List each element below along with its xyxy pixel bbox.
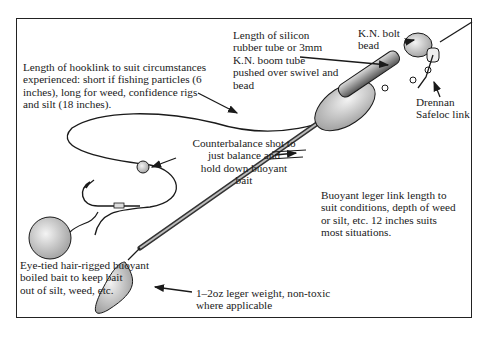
counterbalance-shot <box>137 161 149 173</box>
hook <box>82 182 140 206</box>
label-counterbalance-shot: Counterbalance shot to just balance and … <box>178 137 310 187</box>
label-bait: Eye-tied hair-rigged buoyant boiled bait… <box>20 259 149 296</box>
shot-arrow <box>152 158 176 167</box>
label-leger-link: Buoyant leger link length to suit condit… <box>321 189 456 239</box>
main-line <box>440 22 472 42</box>
label-silicon-tube: Length of silicon rubber tube or 3mm K.N… <box>233 29 338 91</box>
label-hooklink: Length of hooklink to suit circumstances… <box>23 61 206 111</box>
label-leger-weight: 1–2oz leger weight, non-toxic where appl… <box>196 287 330 312</box>
weight-arrow <box>155 287 192 292</box>
label-bolt-bead: K.N. bolt bead <box>358 27 400 52</box>
label-safeloc-link: Drennan Safeloc link <box>416 96 470 121</box>
boilie-bait <box>29 217 71 259</box>
safeloc-arrow <box>434 82 440 97</box>
